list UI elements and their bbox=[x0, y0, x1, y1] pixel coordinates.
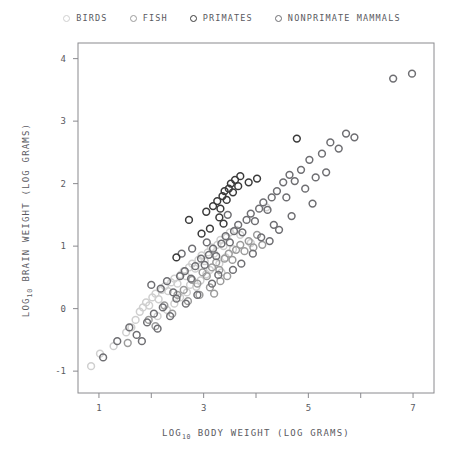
y-axis-tick-label: 3 bbox=[50, 116, 66, 126]
data-point bbox=[224, 273, 231, 280]
data-point bbox=[323, 169, 330, 176]
data-point bbox=[198, 230, 205, 237]
data-point bbox=[312, 174, 319, 181]
data-point bbox=[231, 228, 238, 235]
data-point bbox=[327, 139, 334, 146]
data-point bbox=[211, 290, 218, 297]
data-point bbox=[235, 183, 242, 190]
data-point bbox=[268, 194, 275, 201]
data-point bbox=[270, 221, 277, 228]
data-point bbox=[241, 248, 248, 255]
x-axis-title-subscript: 10 bbox=[182, 433, 191, 441]
data-point bbox=[132, 316, 139, 323]
y-axis-title-subscript: 10 bbox=[26, 288, 34, 297]
data-point bbox=[133, 331, 140, 338]
data-point bbox=[274, 188, 281, 195]
y-axis-tick-label: 4 bbox=[50, 54, 66, 64]
series-primates bbox=[173, 135, 300, 261]
data-point bbox=[306, 156, 313, 163]
data-point bbox=[254, 175, 261, 182]
data-point bbox=[335, 145, 342, 152]
y-axis-tick-label: -1 bbox=[50, 366, 66, 376]
data-point bbox=[286, 171, 293, 178]
data-point bbox=[309, 200, 316, 207]
data-point bbox=[237, 173, 244, 180]
data-point bbox=[207, 225, 214, 232]
data-point bbox=[288, 213, 295, 220]
y-axis-title-suffix: BRAIN WEIGHT (LOG GRAMS) bbox=[21, 123, 31, 288]
y-axis-tick-label: 2 bbox=[50, 179, 66, 189]
data-point bbox=[291, 178, 298, 185]
data-point bbox=[259, 241, 266, 248]
data-point bbox=[203, 239, 210, 246]
data-point bbox=[243, 216, 250, 223]
data-point bbox=[302, 185, 309, 192]
data-point bbox=[203, 208, 210, 215]
y-axis-title: LOG10 BRAIN WEIGHT (LOG GRAMS) bbox=[18, 40, 34, 400]
data-point bbox=[293, 135, 300, 142]
data-point bbox=[266, 238, 273, 245]
data-point bbox=[280, 179, 287, 186]
y-axis-tick-label: 1 bbox=[50, 241, 66, 251]
data-point bbox=[186, 216, 193, 223]
data-point bbox=[124, 340, 131, 347]
y-axis-title-prefix: LOG bbox=[21, 297, 31, 317]
data-point bbox=[298, 166, 305, 173]
x-axis-tick-label: 1 bbox=[89, 403, 109, 413]
data-point bbox=[247, 210, 254, 217]
data-point bbox=[409, 70, 416, 77]
scatter-plot-figure: BIRDS FISH PRIMATES NONPRIMATE MAMMALS L… bbox=[0, 0, 464, 468]
x-axis-tick-label: 5 bbox=[298, 403, 318, 413]
plot-canvas bbox=[0, 0, 464, 468]
x-axis-tick-label: 3 bbox=[194, 403, 214, 413]
x-axis-tick-label: 7 bbox=[403, 403, 423, 413]
y-axis-tick-label: 0 bbox=[50, 304, 66, 314]
data-point bbox=[390, 75, 397, 82]
data-point bbox=[114, 338, 121, 345]
data-point bbox=[229, 256, 236, 263]
data-point bbox=[245, 179, 252, 186]
data-point bbox=[230, 266, 237, 273]
data-point bbox=[217, 205, 224, 212]
data-point bbox=[220, 220, 227, 227]
data-point bbox=[189, 245, 196, 252]
data-point bbox=[230, 189, 237, 196]
data-point bbox=[319, 150, 326, 157]
data-point bbox=[216, 214, 223, 221]
data-point bbox=[223, 196, 230, 203]
data-point bbox=[148, 281, 155, 288]
data-point bbox=[238, 260, 245, 267]
x-axis-title-suffix: BODY WEIGHT (LOG GRAMS) bbox=[191, 428, 350, 438]
data-point bbox=[343, 130, 350, 137]
data-point bbox=[155, 296, 162, 303]
data-point bbox=[88, 363, 95, 370]
data-point bbox=[224, 211, 231, 218]
data-point bbox=[351, 134, 358, 141]
data-point bbox=[138, 338, 145, 345]
data-point bbox=[173, 254, 180, 261]
data-point bbox=[256, 205, 263, 212]
x-axis-title-prefix: LOG bbox=[162, 428, 182, 438]
x-axis-title: LOG10 BODY WEIGHT (LOG GRAMS) bbox=[78, 428, 434, 441]
data-point bbox=[252, 218, 259, 225]
data-point bbox=[237, 241, 244, 248]
data-point bbox=[283, 194, 290, 201]
